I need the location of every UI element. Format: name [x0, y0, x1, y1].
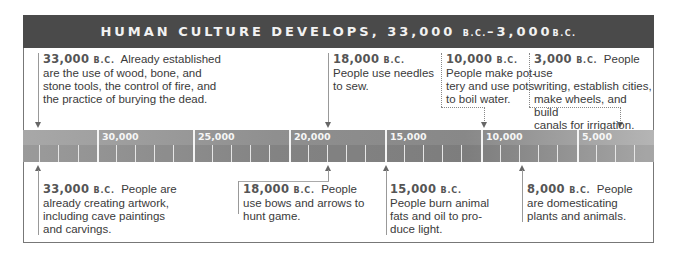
event-text: make wheels, and build	[534, 93, 654, 119]
ruler-minor-tick	[538, 145, 539, 162]
ruler-major-tick	[385, 130, 387, 162]
event-text: use bows and arrows to	[243, 197, 373, 210]
ruler-minor-tick	[135, 145, 136, 162]
timeline-ruler: 30,000 25,000 20,000 15,000 10,000 5,000	[23, 130, 654, 162]
ruler-minor-tick	[78, 145, 79, 162]
ruler-minor-tick	[154, 145, 155, 162]
event-text: People use needles	[333, 67, 443, 80]
ruler-minor-tick	[442, 145, 443, 162]
event-year: 18,000	[243, 182, 289, 196]
ruler-minor-tick	[250, 145, 251, 162]
ruler-label: 20,000	[294, 131, 331, 142]
connector-line	[328, 53, 329, 123]
event-year: 33,000	[43, 182, 89, 196]
event-text: People	[597, 183, 633, 195]
connector-line	[38, 170, 39, 235]
event-top-3000: 3,000 B.C. People use writing, establish…	[534, 53, 654, 132]
event-top-10000: 10,000 B.C. People make pot- tery and us…	[446, 53, 546, 106]
arrow-down-icon	[325, 122, 331, 128]
ruler-label: 5,000	[582, 131, 612, 142]
bc-label: B.C.	[569, 186, 590, 195]
title-text-end: –3,000	[487, 24, 553, 39]
event-text: writing, establish cities,	[534, 80, 654, 93]
ruler-label: 10,000	[486, 131, 523, 142]
event-text: including cave paintings	[43, 210, 203, 223]
ruler-label: 30,000	[102, 131, 139, 142]
ruler-minor-tick	[634, 145, 635, 162]
ruler-minor-tick	[596, 145, 597, 162]
ruler-minor-tick	[212, 145, 213, 162]
ruler-major-tick	[193, 130, 195, 162]
timeline-header: HUMAN CULTURE DEVELOPS, 33,000 B.C.–3,00…	[23, 15, 654, 48]
event-text: fats and oil to pro-	[390, 210, 510, 223]
bc-label: B.C.	[384, 56, 405, 65]
bc-label: B.C.	[94, 186, 115, 195]
ruler-minor-tick	[500, 145, 501, 162]
title-bc: B.C.	[553, 29, 577, 38]
ruler-major-tick	[97, 130, 99, 162]
event-bottom-8000: 8,000 B.C. People are domesticating plan…	[527, 183, 652, 223]
event-text: People make pot-	[446, 67, 546, 80]
event-text: duce light.	[390, 223, 510, 236]
ruler-major-tick	[289, 130, 291, 162]
connector-line	[522, 170, 523, 222]
event-year: 3,000	[534, 52, 572, 66]
event-text: stone tools, the control of fire, and	[43, 80, 273, 93]
ruler-minor-tick	[346, 145, 347, 162]
arrow-down-icon	[35, 122, 41, 128]
connector-line	[441, 107, 485, 108]
timeline-title: HUMAN CULTURE DEVELOPS, 33,000 B.C.–3,00…	[100, 24, 576, 39]
ruler-minor-tick	[615, 145, 616, 162]
connector-line	[38, 53, 39, 123]
event-text: People burn animal	[390, 197, 510, 210]
bc-label: B.C.	[294, 186, 315, 195]
event-year: 8,000	[527, 182, 565, 196]
ruler-minor-tick	[116, 145, 117, 162]
ruler-bottom-band	[23, 145, 654, 162]
event-text: Already established	[121, 53, 221, 65]
ruler-minor-tick	[461, 145, 462, 162]
event-text: already creating artwork,	[43, 197, 203, 210]
ruler-minor-tick	[557, 145, 558, 162]
connector-line	[238, 181, 239, 214]
event-top-33000: 33,000 B.C. Already established are the …	[43, 53, 273, 106]
ruler-minor-tick	[39, 145, 40, 162]
ruler-major-tick	[481, 130, 483, 162]
title-bc: B.C.	[463, 29, 487, 38]
event-bottom-18000: 18,000 B.C. People use bows and arrows t…	[243, 183, 373, 223]
event-bottom-33000: 33,000 B.C. People are already creating …	[43, 183, 203, 236]
event-year: 33,000	[43, 52, 89, 66]
event-bottom-15000: 15,000 B.C. People burn animal fats and …	[390, 183, 510, 236]
ruler-minor-tick	[58, 145, 59, 162]
bc-label: B.C.	[576, 56, 597, 65]
event-year: 15,000	[390, 182, 436, 196]
ruler-label: 25,000	[198, 131, 235, 142]
bc-label: B.C.	[441, 186, 462, 195]
ruler-minor-tick	[308, 145, 309, 162]
ruler-minor-tick	[404, 145, 405, 162]
event-text: plants and animals.	[527, 210, 652, 223]
connector-line	[386, 170, 387, 235]
event-text: hunt game.	[243, 210, 373, 223]
event-text: People	[321, 183, 357, 195]
event-text: tery and use pots	[446, 80, 546, 93]
arrow-down-icon	[481, 122, 487, 128]
ruler-minor-tick	[327, 145, 328, 162]
event-text: and carvings.	[43, 223, 203, 236]
connector-line	[484, 107, 485, 123]
ruler-minor-tick	[423, 145, 424, 162]
event-text: to sew.	[333, 80, 443, 93]
ruler-minor-tick	[365, 145, 366, 162]
ruler-minor-tick	[173, 145, 174, 162]
connector-line	[529, 53, 530, 107]
bc-label: B.C.	[497, 56, 518, 65]
event-year: 10,000	[446, 52, 492, 66]
ruler-minor-tick	[231, 145, 232, 162]
event-text: to boil water.	[446, 93, 546, 106]
event-text: the practice of burying the dead.	[43, 93, 273, 106]
title-text: HUMAN CULTURE DEVELOPS, 33,000	[100, 24, 462, 39]
ruler-major-tick	[577, 130, 579, 162]
event-text: People are	[121, 183, 177, 195]
bc-label: B.C.	[94, 56, 115, 65]
event-text: are the use of wood, bone, and	[43, 67, 273, 80]
